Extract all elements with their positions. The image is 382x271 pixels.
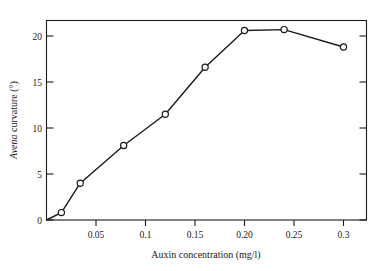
x-tick-label: 0.20: [236, 230, 253, 240]
x-tick-label: 0.15: [187, 230, 204, 240]
data-series-line: [47, 30, 344, 220]
data-point-marker: [281, 27, 287, 33]
y-tick-label: 0: [37, 216, 42, 226]
y-tick-label: 20: [33, 32, 43, 42]
data-point-marker: [241, 27, 247, 33]
y-tick-labels: 20 15 10 5 0: [33, 32, 43, 226]
y-axis-title: Avena curvature (°): [8, 81, 20, 160]
data-point-marker: [58, 210, 64, 216]
y-axis-title-italic: Avena: [8, 134, 19, 159]
y-axis-title-roman: curvature (°): [8, 81, 20, 134]
y-tick-label: 15: [33, 78, 43, 88]
data-markers: [58, 27, 346, 216]
figure-container: 20 15 10 5 0 0.05 0.1 0.15 0.20 0.25 0.3…: [0, 0, 382, 271]
data-point-marker: [202, 64, 208, 70]
x-tick-labels: 0.05 0.1 0.15 0.20 0.25 0.3: [88, 230, 350, 240]
data-point-marker: [121, 142, 127, 148]
data-point-marker: [340, 44, 346, 50]
x-axis-ticks: [96, 220, 344, 226]
y-axis-ticks-right: [360, 36, 367, 220]
x-tick-label: 0.05: [88, 230, 105, 240]
data-point-marker: [77, 180, 83, 186]
x-tick-label: 0.1: [140, 230, 152, 240]
y-tick-label: 5: [37, 170, 42, 180]
data-point-marker: [162, 111, 168, 117]
x-tick-label: 0.25: [286, 230, 303, 240]
plot-frame: [47, 21, 367, 221]
x-axis-title: Auxin concentration (mg/l): [151, 249, 260, 261]
y-axis-ticks-left: [47, 36, 54, 220]
y-tick-label: 10: [33, 124, 43, 134]
x-tick-label: 0.3: [338, 230, 350, 240]
chart-plot: 20 15 10 5 0 0.05 0.1 0.15 0.20 0.25 0.3…: [0, 0, 382, 271]
